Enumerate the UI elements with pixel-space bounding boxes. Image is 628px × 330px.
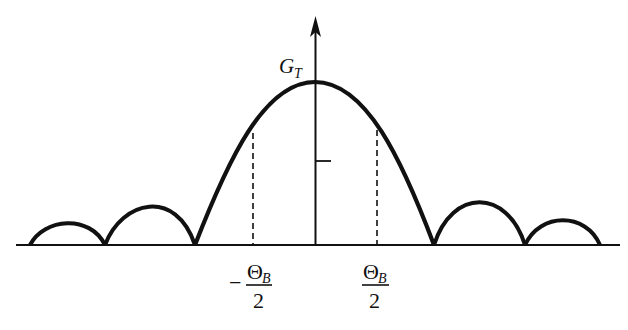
left-outer-sidelobe bbox=[30, 223, 105, 245]
positive-half-beamwidth-label: Θ B 2 bbox=[362, 259, 389, 313]
svg-text:2: 2 bbox=[369, 288, 380, 313]
left-first-sidelobe bbox=[105, 207, 195, 245]
svg-text:Θ: Θ bbox=[363, 259, 379, 284]
right-outer-sidelobe bbox=[525, 220, 600, 245]
svg-text:B: B bbox=[378, 271, 387, 286]
antenna-gain-pattern-diagram: G T − Θ B 2 Θ B 2 bbox=[0, 0, 628, 330]
negative-half-beamwidth-label: − Θ B 2 bbox=[229, 259, 272, 313]
gain-axis-label: G T bbox=[279, 54, 303, 81]
svg-text:G: G bbox=[279, 54, 294, 78]
svg-text:T: T bbox=[294, 66, 303, 81]
svg-text:2: 2 bbox=[253, 288, 264, 313]
right-first-sidelobe bbox=[434, 202, 525, 245]
svg-text:B: B bbox=[262, 271, 271, 286]
svg-text:−: − bbox=[229, 270, 241, 295]
vertical-axis bbox=[310, 16, 321, 246]
svg-text:Θ: Θ bbox=[247, 259, 263, 284]
